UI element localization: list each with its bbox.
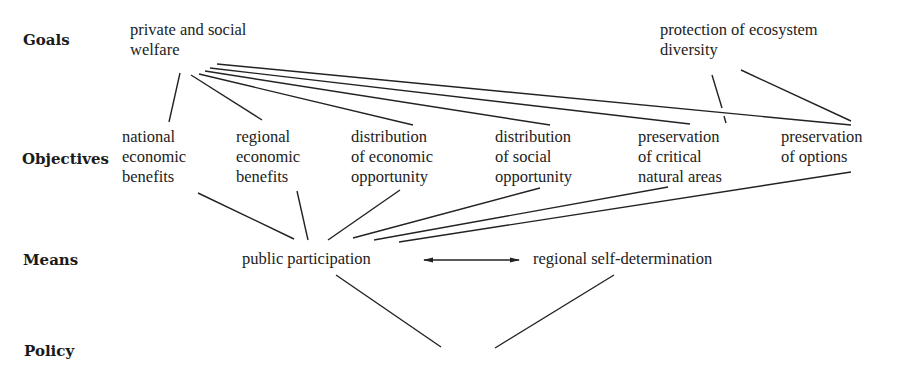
means-public-participation: public participation xyxy=(242,249,371,269)
edge-dist-econ-participation xyxy=(328,190,400,240)
edge-ecosystem-pres-critical xyxy=(712,75,722,108)
objective-distribution-economic-opportunity: distribution of economic opportunity xyxy=(351,127,433,187)
edge-self-determination-policy xyxy=(495,275,614,348)
objective-distribution-social-opportunity: distribution of social opportunity xyxy=(495,127,572,187)
level-label-goals: Goals xyxy=(23,31,70,49)
means-regional-self-determination: regional self-determination xyxy=(533,249,712,269)
edge-ecosystem-pres-options xyxy=(741,70,851,121)
edge-welfare-pres-critical xyxy=(210,68,690,124)
diagram-canvas: Goals Objectives Means Policy private an… xyxy=(0,0,902,372)
edge-welfare-dist-econ xyxy=(199,74,413,125)
objective-preservation-of-options: preservation of options xyxy=(781,127,863,167)
edge-welfare-pres-options xyxy=(217,64,851,125)
level-label-means: Means xyxy=(23,251,78,269)
edge-dist-social-participation xyxy=(353,188,540,238)
objective-preservation-critical-natural-areas: preservation of critical natural areas xyxy=(638,127,722,187)
goal-private-social-welfare: private and social welfare xyxy=(130,20,246,60)
edge-national-participation xyxy=(198,193,294,239)
edge-participation-policy xyxy=(336,275,441,347)
edge-welfare-national xyxy=(169,73,180,122)
edge-pres-critical-participation xyxy=(374,187,668,240)
goal-ecosystem-diversity: protection of ecosystem diversity xyxy=(660,20,818,60)
objective-national-economic-benefits: national economic benefits xyxy=(122,127,186,187)
level-label-objectives: Objectives xyxy=(22,150,109,168)
objective-regional-economic-benefits: regional economic benefits xyxy=(236,127,300,187)
edge-regional-participation xyxy=(297,191,308,240)
edge-ecosystem-pres-critical-end xyxy=(724,116,726,123)
edge-welfare-regional xyxy=(191,75,262,120)
level-label-policy: Policy xyxy=(24,342,74,360)
